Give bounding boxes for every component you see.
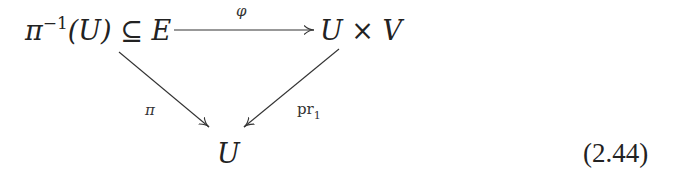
label-pr1: pr1 [297, 102, 321, 117]
total-space-e: E [151, 15, 171, 46]
pr-subscript: 1 [314, 109, 321, 122]
pr-text: pr [297, 100, 314, 118]
inverse-exponent: −1 [43, 13, 68, 33]
node-product-u-v: U × V [320, 17, 402, 44]
label-pi: π [145, 103, 155, 118]
subseteq-symbol: ⊆ [120, 15, 143, 46]
equation-number: (2.44) [583, 140, 648, 167]
node-base-u: U [217, 140, 240, 167]
commutative-diagram: π−1(U) ⊆ E φ U × V π pr1 U (2.44) [0, 0, 675, 185]
label-phi: φ [236, 4, 247, 19]
preimage-argument: (U) [68, 15, 112, 46]
times-symbol: × [351, 15, 374, 46]
product-factor-u: U [320, 15, 343, 46]
pi-symbol: π [25, 15, 43, 46]
product-factor-v: V [383, 15, 403, 46]
node-preimage-subset-e: π−1(U) ⊆ E [25, 17, 171, 44]
arrow-pi [119, 52, 209, 127]
arrow-pr1 [244, 49, 339, 127]
